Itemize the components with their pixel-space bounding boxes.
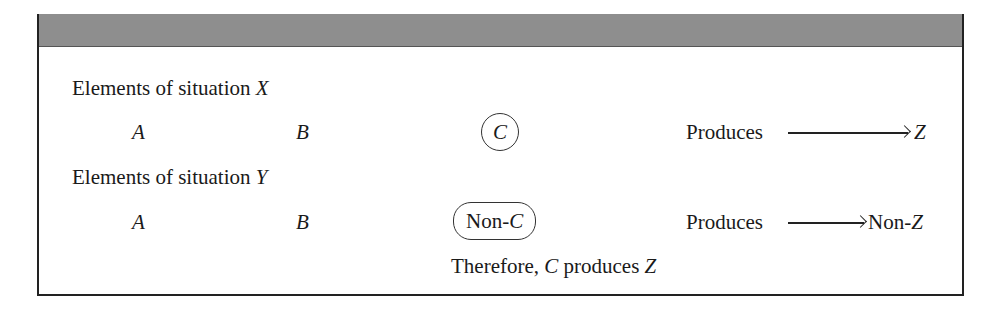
- situation-y-heading: Elements of situation Y: [72, 165, 267, 189]
- non-var: Z: [911, 210, 923, 234]
- situation-x-heading: Elements of situation X: [72, 76, 269, 100]
- non-var: C: [509, 209, 523, 233]
- conclusion-var-c: C: [544, 254, 558, 278]
- element-a-y: A: [132, 210, 145, 234]
- heading-var: Y: [256, 165, 268, 189]
- non-prefix: Non-: [466, 209, 509, 233]
- element-b-y: B: [296, 210, 309, 234]
- conclusion-var-z: Z: [645, 254, 657, 278]
- conclusion: Therefore, C produces Z: [451, 254, 656, 278]
- element-a-x: A: [132, 120, 145, 144]
- arrow-right-icon: [788, 222, 864, 224]
- non-prefix: Non-: [868, 210, 911, 234]
- heading-text: Elements of situation: [72, 165, 256, 189]
- circled-element-non-c: Non-C: [453, 202, 536, 240]
- produces-label-y: Produces: [686, 210, 763, 234]
- conclusion-middle: produces: [558, 254, 644, 278]
- conclusion-prefix: Therefore,: [451, 254, 544, 278]
- heading-var: X: [256, 76, 269, 100]
- heading-text: Elements of situation: [72, 76, 256, 100]
- element-b-x: B: [296, 120, 309, 144]
- result-z: Z: [914, 120, 926, 144]
- result-non-z: Non-Z: [868, 210, 923, 234]
- produces-label-x: Produces: [686, 120, 763, 144]
- arrow-right-icon: [788, 132, 908, 134]
- circled-element-c: C: [481, 113, 519, 151]
